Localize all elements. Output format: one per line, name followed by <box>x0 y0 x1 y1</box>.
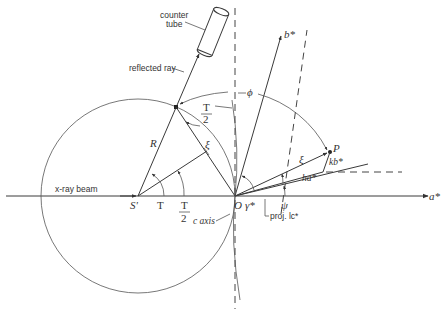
label-t-half-top-den: 2 <box>203 113 209 125</box>
label-p: P <box>332 142 340 154</box>
diffractometer-geometry-diagram: counter tube reflected ray x-ray beam S'… <box>0 0 442 309</box>
label-tube: tube <box>166 19 183 29</box>
label-s-prime: S' <box>130 199 139 211</box>
label-t-half-bottom-den: 2 <box>181 212 187 224</box>
label-psi: ψ <box>281 199 288 211</box>
angle-arc-T-half <box>178 171 184 196</box>
angle-arc-psi-top <box>282 174 283 184</box>
label-b-star: b* <box>284 28 296 40</box>
label-t-half-top-num: T <box>203 101 210 113</box>
label-ha-star: ha* <box>302 173 317 183</box>
label-reflected-ray: reflected ray <box>129 63 177 73</box>
label-phi: ϕ <box>247 86 253 98</box>
label-xi-upper: ξ <box>205 138 210 151</box>
label-c-axis: c axis <box>193 216 215 226</box>
reflected-ray <box>138 54 199 196</box>
t-half-top-leader <box>215 106 232 108</box>
label-xray-beam: x-ray beam <box>55 184 98 194</box>
proj-lc-leader <box>265 199 269 216</box>
counter-tube-icon <box>196 6 230 58</box>
label-t-angle: T <box>157 199 164 211</box>
xi-line <box>138 151 207 196</box>
label-proj-lc: proj. lc* <box>270 211 299 221</box>
label-o: O <box>234 199 242 211</box>
label-kb-star: kb* <box>329 157 343 167</box>
label-a-star: a* <box>429 190 441 202</box>
c-axis-leader <box>216 214 230 221</box>
b-star-axis <box>235 36 281 196</box>
angle-arc-T <box>152 174 164 196</box>
label-xi-lower: ξ <box>299 153 304 166</box>
label-gamma-star: γ* <box>245 199 255 211</box>
counter-tube-leader <box>185 22 205 30</box>
phi-arc <box>258 94 327 150</box>
b-star-parallel-dashed <box>281 30 307 214</box>
label-r: R <box>149 137 157 149</box>
label-t-half-bottom-num: T <box>181 199 188 211</box>
